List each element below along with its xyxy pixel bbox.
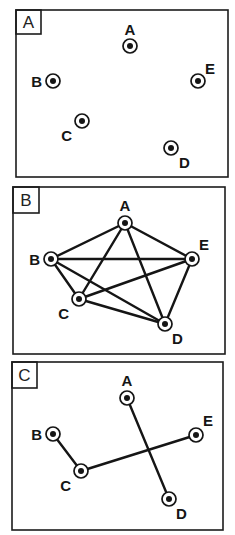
node-b: B <box>29 251 58 268</box>
edge-c-d <box>79 299 165 324</box>
panel-frame <box>12 362 223 530</box>
panel-tag-label: A <box>23 13 35 32</box>
node-e: E <box>185 236 209 266</box>
node-label: A <box>125 21 136 38</box>
node-label: B <box>31 426 42 443</box>
edges <box>51 223 192 324</box>
edge-a-d <box>127 398 169 499</box>
node-label: C <box>60 477 71 494</box>
node-label: D <box>179 154 190 171</box>
node-a: A <box>123 21 137 53</box>
node-dot-icon <box>168 145 174 151</box>
node-label: C <box>61 127 72 144</box>
edge-c-e <box>79 259 192 299</box>
panel-c: CABCDE <box>12 362 223 530</box>
node-dot-icon <box>162 321 168 327</box>
node-e: E <box>189 412 213 442</box>
node-dot-icon <box>76 296 82 302</box>
edge-a-e <box>125 223 192 259</box>
node-dot-icon <box>166 496 172 502</box>
panel-tag-label: B <box>20 191 31 210</box>
node-dot-icon <box>50 78 56 84</box>
node-dot-icon <box>189 256 195 262</box>
node-label: B <box>31 73 42 90</box>
node-label: D <box>176 505 187 522</box>
node-dot-icon <box>193 432 199 438</box>
node-dot-icon <box>122 220 128 226</box>
node-b: B <box>31 426 60 443</box>
edge-c-e <box>81 435 196 471</box>
panel-tag-label: C <box>18 366 30 385</box>
node-label: D <box>172 330 183 347</box>
graph-diagram: AABCDEBABCDECABCDE <box>0 0 235 535</box>
node-label: E <box>205 60 215 77</box>
node-a: A <box>118 197 132 230</box>
edge-a-d <box>125 223 165 324</box>
node-c: C <box>60 464 88 494</box>
node-d: D <box>162 492 187 522</box>
node-e: E <box>191 60 215 88</box>
edge-d-e <box>165 259 192 324</box>
node-a: A <box>120 372 134 405</box>
node-label: E <box>199 236 209 253</box>
node-d: D <box>164 141 190 171</box>
node-b: B <box>31 73 60 90</box>
node-dot-icon <box>50 431 56 437</box>
node-dot-icon <box>195 78 201 84</box>
node-label: E <box>203 412 213 429</box>
node-label: A <box>120 197 131 214</box>
panel-frame <box>16 10 228 177</box>
node-d: D <box>158 317 183 347</box>
edges <box>53 398 196 499</box>
node-label: A <box>122 372 133 389</box>
node-dot-icon <box>124 395 130 401</box>
node-dot-icon <box>78 468 84 474</box>
node-c: C <box>61 114 89 144</box>
node-label: C <box>58 305 69 322</box>
node-label: B <box>29 251 40 268</box>
node-c: C <box>58 292 86 322</box>
node-dot-icon <box>79 118 85 124</box>
panel-b: BABCDE <box>13 187 225 354</box>
node-dot-icon <box>48 256 54 262</box>
panel-a: AABCDE <box>16 10 228 177</box>
node-dot-icon <box>127 43 133 49</box>
